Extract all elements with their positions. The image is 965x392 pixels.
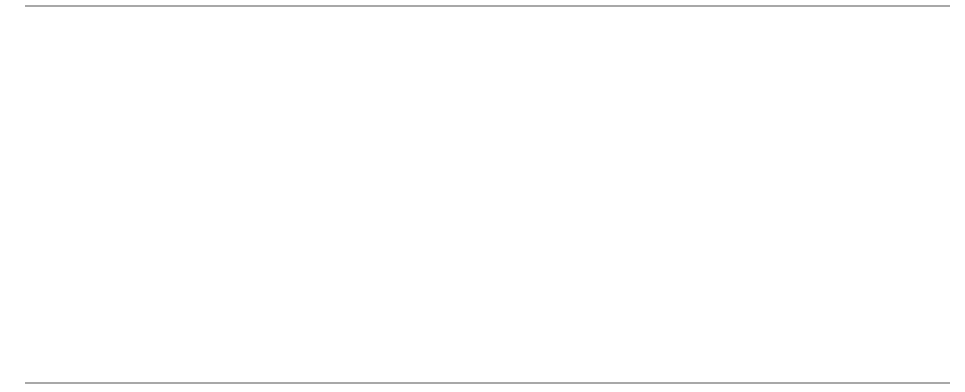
towers-diagram [0, 0, 965, 392]
